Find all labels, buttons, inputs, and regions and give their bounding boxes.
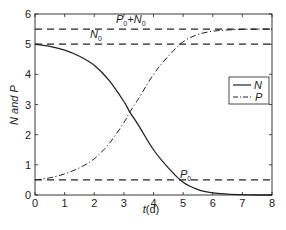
x-axis-label: t(d): [143, 203, 160, 215]
y-tick-label: 2: [25, 129, 31, 141]
x-tick-label: 7: [239, 197, 245, 209]
x-tick-label: 6: [210, 197, 216, 209]
label-p0-plus-n0: P0+N0: [116, 13, 146, 27]
x-tick-label: 5: [180, 197, 186, 209]
label-n0: N0: [90, 28, 102, 42]
x-tick-label: 0: [32, 197, 38, 209]
x-tick-label: 2: [91, 197, 97, 209]
y-axis-label: N and P: [8, 84, 20, 124]
plot-frame: [35, 14, 272, 195]
y-tick-label: 5: [25, 38, 31, 50]
series-n: [35, 44, 272, 195]
legend: N P: [229, 77, 269, 104]
y-tick-label: 3: [25, 99, 31, 111]
y-tick-label: 1: [25, 159, 31, 171]
y-tick-label: 6: [25, 8, 31, 20]
x-tick-label: 1: [62, 197, 68, 209]
x-tick-label: 8: [269, 197, 275, 209]
y-tick-label: 0: [25, 189, 31, 201]
plot-axes: 0123456780123456: [25, 8, 275, 209]
data-series: [35, 29, 272, 195]
label-p0: P0: [180, 168, 191, 182]
legend-n-label: N: [254, 79, 262, 91]
x-tick-label: 3: [121, 197, 127, 209]
chart: 0123456780123456 P0+N0 N0 P0 t(d) N and …: [0, 0, 286, 230]
legend-p-label: P: [255, 91, 263, 103]
y-tick-label: 4: [25, 68, 31, 80]
